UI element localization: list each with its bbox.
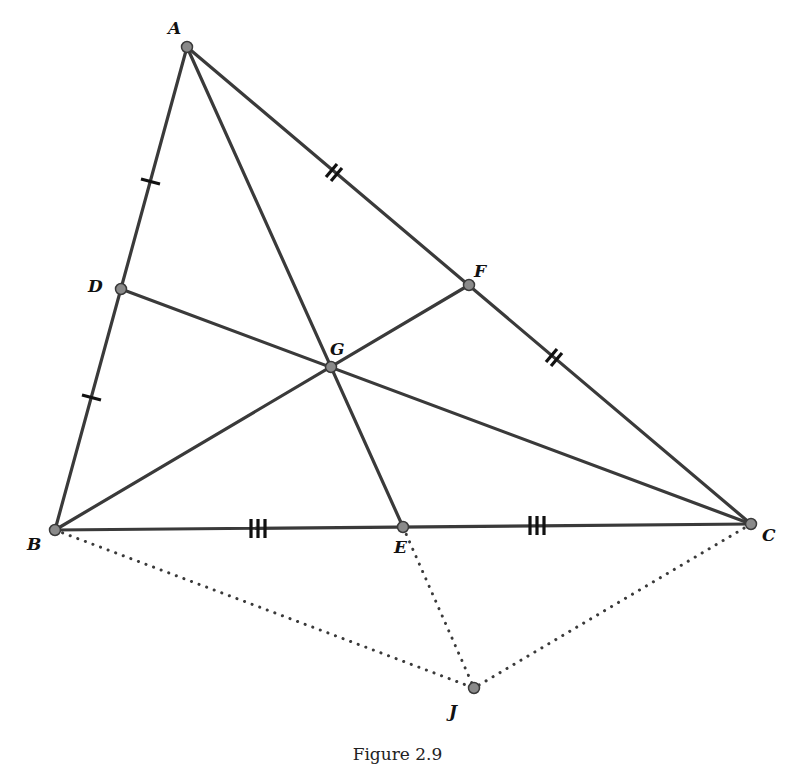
median-CD (121, 289, 751, 524)
dotted-segment-CJ (474, 524, 751, 688)
point-B (50, 525, 61, 536)
point-C (746, 519, 757, 530)
point-E (398, 522, 409, 533)
label-B: B (26, 534, 41, 554)
point-F (464, 280, 475, 291)
point-G (326, 362, 337, 373)
label-E: E (393, 537, 408, 557)
label-A: A (166, 18, 181, 38)
median-AE (187, 47, 403, 527)
dotted-segment-BJ (55, 530, 474, 688)
dotted-segment-EJ (403, 527, 474, 688)
point-J (469, 683, 480, 694)
label-G: G (330, 339, 345, 359)
label-F: F (473, 261, 488, 281)
label-D: D (87, 276, 103, 296)
median-BF (55, 285, 469, 530)
figure-caption: Figure 2.9 (0, 744, 795, 764)
point-A (182, 42, 193, 53)
label-J: J (446, 701, 458, 721)
label-C: C (762, 525, 776, 545)
point-D (116, 284, 127, 295)
